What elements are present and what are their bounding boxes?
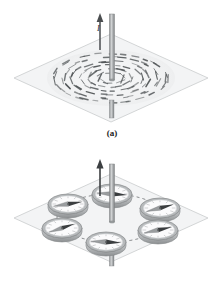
iron-filing xyxy=(95,53,101,54)
compass-pivot xyxy=(159,207,161,209)
panel-a: I (a) xyxy=(0,0,224,150)
magnetic-field-figure: I (a) xyxy=(0,0,224,301)
wire-upper-b xyxy=(110,164,115,222)
caption-a: (a) xyxy=(0,128,224,138)
iron-filing xyxy=(121,54,126,55)
wire-lower-stub-a xyxy=(110,100,115,118)
wire-base-ellipse-b xyxy=(109,221,114,223)
iron-filing xyxy=(121,101,129,102)
compass xyxy=(42,218,82,242)
compass-pivot xyxy=(105,241,107,243)
compass xyxy=(48,194,88,218)
compass-pivot xyxy=(67,203,69,205)
current-label-a: I xyxy=(97,24,100,33)
panel-b: I (b) xyxy=(0,150,224,301)
panel-a-illustration xyxy=(0,0,224,130)
wire-upper-a xyxy=(110,14,115,80)
iron-filing xyxy=(101,91,106,92)
compass-pivot xyxy=(157,229,159,231)
compass xyxy=(86,232,126,256)
compass xyxy=(138,220,178,244)
iron-filing xyxy=(114,61,123,62)
iron-filing xyxy=(93,100,98,101)
panel-b-illustration xyxy=(0,150,224,280)
iron-filing xyxy=(165,75,166,82)
wire-base-ellipse-a xyxy=(109,79,114,81)
iron-filing xyxy=(118,57,126,58)
compass xyxy=(140,198,180,222)
iron-filing xyxy=(117,95,123,96)
compass-pivot xyxy=(61,227,63,229)
